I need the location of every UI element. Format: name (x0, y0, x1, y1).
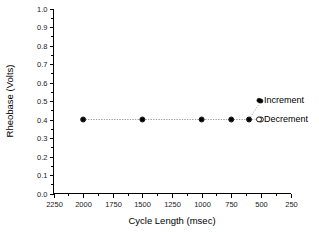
y-tick-label: 0.3 (37, 134, 47, 143)
data-point-increment (200, 117, 204, 121)
legend-label-increment: Increment (264, 95, 305, 105)
x-tick-label: 1750 (105, 200, 122, 209)
y-tick-label: 0.6 (37, 79, 47, 88)
x-tick-label: 1500 (134, 200, 151, 209)
chart-figure: 0.00.10.20.30.40.50.60.70.80.91.0 225020… (0, 0, 319, 232)
data-point-increment (229, 117, 233, 121)
y-axis-title: Rheobase (Volts) (4, 65, 15, 138)
x-tick-label: 1000 (194, 200, 211, 209)
y-tick-label: 0.7 (37, 60, 47, 69)
y-tick-label: 0.2 (37, 153, 47, 162)
x-tick-label: 2250 (46, 200, 63, 209)
x-tick-label: 1250 (164, 200, 181, 209)
data-point-increment (140, 117, 144, 121)
y-tick-label: 1.0 (37, 5, 47, 14)
y-tick-label: 0.1 (37, 171, 47, 180)
scatter-plot: 0.00.10.20.30.40.50.60.70.80.91.0 225020… (0, 0, 319, 232)
x-axis-title: Cycle Length (msec) (128, 215, 215, 226)
x-tick-label: 250 (285, 200, 298, 209)
y-tick-label: 0.4 (37, 116, 47, 125)
data-point-increment (81, 117, 85, 121)
legend-label-decrement: Decrement (264, 114, 309, 124)
data-point-increment (247, 117, 251, 121)
y-tick-label: 0.9 (37, 23, 47, 32)
y-tick-label: 0.8 (37, 42, 47, 51)
y-tick-label: 0.5 (37, 97, 47, 106)
x-tick-label: 2000 (75, 200, 92, 209)
x-axis-tick-labels: 225020001750150012501000750500250 (46, 200, 298, 209)
legend-marker-increment (257, 98, 261, 102)
x-tick-label: 750 (225, 200, 238, 209)
legend-marker-decrement (257, 117, 262, 122)
x-tick-label: 500 (255, 200, 268, 209)
y-tick-label: 0.0 (37, 190, 47, 199)
